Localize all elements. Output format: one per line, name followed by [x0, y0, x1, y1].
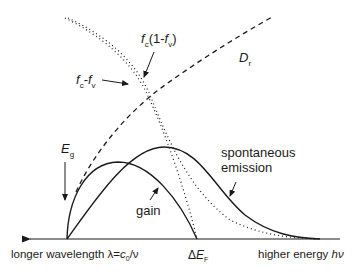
axis-mid-label: ΔEF [188, 248, 208, 262]
fc-one-minus-fv-label: fc(1-fv) [141, 31, 176, 46]
fcfv-pointer-arrow [102, 80, 128, 84]
spontaneous-emission-label: spontaneous emission [221, 145, 295, 175]
gain-curve [67, 162, 197, 239]
eg-subscript: g [70, 150, 74, 159]
delta-symbol: Δ [188, 248, 196, 262]
spont-line2: emission [221, 160, 295, 175]
spont-line1: spontaneous [221, 145, 295, 160]
fc-subscript: c [145, 40, 149, 49]
hv-symbol: hν [332, 248, 344, 260]
fc-subscript: c [80, 81, 84, 90]
axis-right-label: higher energy hν [258, 248, 344, 260]
gain-label: gain [136, 203, 161, 218]
gain-pointer-arrow [150, 188, 158, 200]
spont-pointer-arrow [230, 182, 236, 196]
over-nu: /ν [130, 248, 139, 260]
paren-close: ) [172, 31, 176, 46]
dr-subscript: r [248, 59, 251, 68]
eg-label: Eg [61, 141, 74, 156]
dr-label: Dr [239, 50, 251, 65]
f-subscript: F [204, 256, 208, 263]
paren-open: (1- [149, 31, 165, 46]
fc-one-minus-fv-curve [68, 18, 318, 239]
fv-subscript: v [92, 81, 96, 90]
gain-spectrum-diagram [0, 0, 361, 274]
longer-wavelength-text: longer wavelength [11, 248, 108, 260]
fc-minus-fv-curve [65, 18, 197, 239]
eg-symbol: E [61, 141, 70, 156]
higher-energy-text: higher energy [258, 248, 332, 260]
e-symbol: E [196, 248, 204, 262]
fc-minus-fv-label: fc-fv [76, 72, 96, 87]
c-symbol: c [120, 248, 126, 260]
c-subscript: 0 [126, 255, 130, 262]
fv-subscript: v [168, 40, 172, 49]
axis-left-label: longer wavelength λ=c0/ν [11, 248, 139, 260]
fc1fv-pointer-arrow [144, 52, 154, 77]
dr-symbol: D [239, 50, 248, 65]
gain-text: gain [136, 203, 161, 218]
lambda-eq: λ= [108, 248, 120, 260]
